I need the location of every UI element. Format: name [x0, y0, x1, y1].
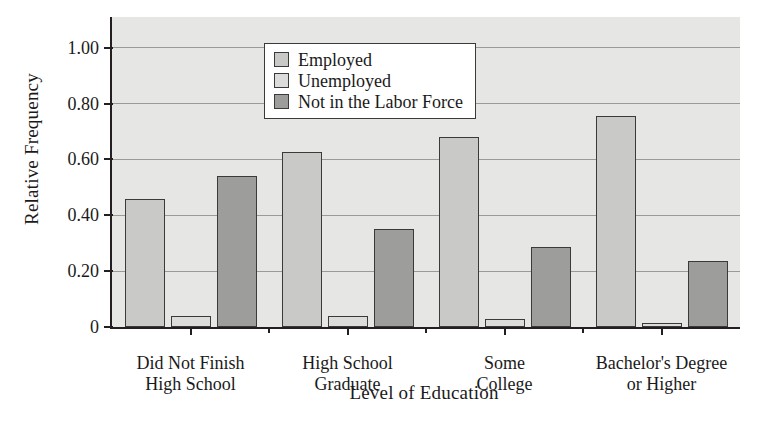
x-tick-mark: [504, 327, 506, 335]
y-tick-mark: [104, 158, 113, 160]
legend-swatch-icon: [274, 73, 289, 88]
bar: [328, 316, 368, 327]
y-tick-label: 0.80: [44, 95, 99, 113]
y-tick-label: 0: [44, 318, 99, 336]
bar: [596, 116, 636, 327]
bar: [282, 152, 322, 327]
bar-chart-figure: Relative Frequency Level of Education 00…: [0, 0, 760, 424]
legend-label: Employed: [298, 51, 372, 69]
x-group-separator-tick: [425, 327, 427, 333]
x-tick-mark: [347, 327, 349, 335]
x-tick-label: SomeCollege: [415, 353, 595, 395]
x-tick-label-line: High School: [101, 374, 281, 395]
x-tick-label-line: Graduate: [258, 374, 438, 395]
y-tick-label: 0.40: [44, 206, 99, 224]
legend-item: Unemployed: [274, 70, 463, 91]
x-group-separator-tick: [268, 327, 270, 333]
gridline: [112, 159, 740, 160]
legend-label: Not in the Labor Force: [298, 93, 463, 111]
legend-swatch-icon: [274, 52, 289, 67]
y-tick-mark: [104, 326, 113, 328]
x-tick-label-line: Bachelor's Degree: [572, 353, 752, 374]
x-tick-mark: [661, 327, 663, 335]
bar: [125, 199, 165, 327]
y-tick-mark: [104, 103, 113, 105]
bar: [688, 261, 728, 327]
gridline: [112, 271, 740, 272]
legend-item: Not in the Labor Force: [274, 91, 463, 112]
x-tick-label: Bachelor's Degreeor Higher: [572, 353, 752, 395]
x-tick-label-line: High School: [258, 353, 438, 374]
y-tick-mark: [104, 47, 113, 49]
x-tick-label: High SchoolGraduate: [258, 353, 438, 395]
y-tick-mark: [104, 214, 113, 216]
y-tick-label: 0.20: [44, 262, 99, 280]
x-tick-label-line: Some: [415, 353, 595, 374]
x-tick-label-line: Did Not Finish: [101, 353, 281, 374]
legend-item: Employed: [274, 49, 463, 70]
bar: [171, 316, 211, 327]
y-axis-title: Relative Frequency: [21, 39, 43, 259]
bar: [439, 137, 479, 327]
plot-area: 00.200.400.600.801.00 Did Not FinishHigh…: [110, 17, 740, 329]
bar: [531, 247, 571, 327]
y-tick-label: 1.00: [44, 39, 99, 57]
x-tick-label: Did Not FinishHigh School: [101, 353, 281, 395]
y-tick-mark: [104, 270, 113, 272]
x-tick-label-line: or Higher: [572, 374, 752, 395]
bar: [217, 176, 257, 327]
x-tick-mark: [190, 327, 192, 335]
bar: [642, 323, 682, 327]
x-group-separator-tick: [582, 327, 584, 333]
legend-swatch-icon: [274, 94, 289, 109]
legend: Employed Unemployed Not in the Labor For…: [264, 43, 476, 119]
legend-label: Unemployed: [298, 72, 391, 90]
y-tick-label: 0.60: [44, 150, 99, 168]
gridline: [112, 215, 740, 216]
bar: [485, 319, 525, 327]
bar: [374, 229, 414, 327]
x-tick-label-line: College: [415, 374, 595, 395]
